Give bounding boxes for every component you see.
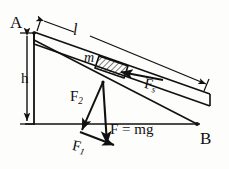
vector-weight-mg xyxy=(103,82,107,144)
label-force-2: F2 xyxy=(70,89,83,106)
label-length-l: l xyxy=(73,22,77,38)
point-a-dot xyxy=(32,31,36,35)
dim-l-left-segment xyxy=(44,21,74,32)
dim-l-left-tick xyxy=(37,19,41,31)
label-force-2-subscript: 2 xyxy=(78,96,83,106)
label-height-h: h xyxy=(21,71,29,86)
label-weight-mg: F = mg xyxy=(110,122,153,137)
label-point-a: A xyxy=(10,14,22,31)
hypotenuse-helper xyxy=(34,40,197,124)
label-point-b: B xyxy=(200,130,211,147)
vector-force-2 xyxy=(82,82,103,130)
physics-diagram-figure: A B h l m Fs F2 F1 F = mg xyxy=(0,0,229,169)
diagram-canvas xyxy=(0,0,229,169)
label-mass-m: m xyxy=(84,51,94,65)
vector-origin-dot xyxy=(101,80,104,83)
triangle-legs xyxy=(25,33,200,125)
point-b-dot xyxy=(195,122,199,126)
dim-l-right-tick xyxy=(204,79,209,91)
